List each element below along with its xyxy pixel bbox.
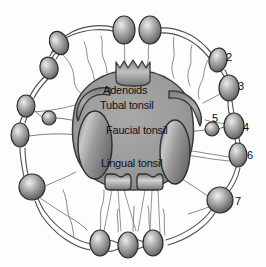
efferent-lingual-4 — [138, 190, 145, 231]
vessel-node7-bottom-b — [168, 213, 215, 245]
afferent-upper-right-3 — [198, 60, 208, 99]
node-top-center-b — [139, 16, 161, 44]
label-node-5: 5 — [212, 113, 218, 124]
afferent-bottom-2 — [117, 209, 118, 232]
efferent-lingual-6 — [158, 190, 160, 233]
afferent-lower-left-1 — [45, 172, 76, 186]
lingual-tonsil-right — [137, 174, 163, 190]
node-left-inner — [42, 111, 56, 125]
label-faucial-tonsil: Faucial tonsil — [106, 125, 167, 136]
vessel-node6-node7 — [224, 167, 236, 191]
afferent-upper-right-1 — [172, 37, 174, 78]
efferent-vessels-lingual — [104, 190, 160, 233]
lingual-tonsil-left — [105, 174, 131, 190]
node-bottom-c — [143, 230, 163, 256]
label-node-6: 6 — [247, 150, 253, 161]
afferent-bottom-5 — [163, 209, 165, 235]
label-node-2: 2 — [226, 52, 232, 63]
node-bottom-b — [118, 232, 138, 258]
efferent-lingual-1 — [104, 190, 112, 231]
node-top-left-a — [46, 28, 72, 57]
afferent-upper-left-1 — [63, 55, 84, 96]
afferent-bottom-4 — [148, 206, 150, 231]
vessel-lefta-to-topleftb-b — [34, 79, 48, 98]
vessel-leftb-to-lefta — [20, 116, 23, 123]
waldeyer-ring-diagram: Adenoids Tubal tonsil Faucial tonsil Lin… — [0, 0, 266, 267]
vessel-node6-node7-b — [228, 168, 240, 193]
afferent-node7-in-2 — [188, 206, 212, 214]
vessel-leftlower-to-leftb-b — [25, 148, 28, 175]
node-left-b — [11, 123, 29, 147]
afferent-bottom-1 — [100, 190, 104, 231]
node-3-body — [219, 75, 239, 101]
node-7-body — [207, 187, 233, 213]
afferent-node7-in — [182, 179, 208, 196]
label-tubal-tonsil: Tubal tonsil — [100, 100, 153, 111]
node-top-left-b — [37, 55, 60, 81]
node-6-body — [229, 143, 247, 167]
node-bottom-a — [90, 230, 110, 256]
node-left-lower — [19, 174, 45, 200]
vessel-outer-ring-upper-right-2 — [160, 33, 211, 61]
afferent-bottom-3 — [133, 206, 134, 231]
label-adenoids: Adenoids — [103, 85, 147, 96]
node-top-center-a — [113, 16, 135, 44]
label-node-4: 4 — [243, 122, 249, 133]
afferent-left-long — [33, 105, 75, 112]
label-node-7: 7 — [235, 196, 241, 207]
efferent-lingual-5 — [150, 190, 152, 231]
label-node-3: 3 — [238, 81, 244, 92]
vessel-leftlower-to-leftb — [20, 148, 24, 177]
node-4-body — [224, 113, 244, 139]
afferent-upper-right-2 — [188, 45, 192, 86]
vessel-topleftb-to-toplefta — [52, 53, 56, 58]
label-lingual-tonsil: Lingual tonsil — [101, 158, 162, 169]
adenoid-pad-shape — [116, 60, 150, 86]
node-left-a — [17, 95, 35, 117]
afferent-upper-left-2 — [84, 42, 96, 85]
node-5-body — [205, 122, 219, 136]
afferent-upper-left-3 — [101, 36, 108, 76]
adenoid-pad — [116, 60, 150, 86]
